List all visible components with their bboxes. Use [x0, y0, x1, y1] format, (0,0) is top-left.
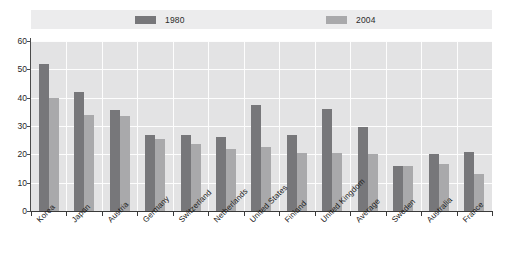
bar	[110, 110, 120, 211]
chart-legend: 1980 2004	[31, 10, 492, 29]
bar	[464, 152, 474, 212]
bar	[181, 135, 191, 212]
legend-swatch-2004	[326, 16, 347, 24]
legend-label-2004: 2004	[356, 15, 376, 25]
bar	[145, 135, 155, 212]
bar	[74, 92, 84, 211]
y-axis: 0102030405060	[0, 0, 27, 275]
bar	[322, 109, 332, 211]
bar-group	[137, 41, 172, 211]
bar	[358, 127, 368, 211]
y-tick-label-20: 20	[5, 149, 27, 159]
y-tick-label-10: 10	[5, 178, 27, 188]
legend-entry-1980: 1980	[135, 10, 185, 29]
bar	[287, 135, 297, 212]
x-tick-mark-8	[315, 211, 316, 216]
bar	[216, 137, 226, 211]
bar-group	[315, 41, 350, 211]
legend-swatch-1980	[135, 16, 156, 24]
y-tick-mark-20	[27, 154, 31, 155]
bar-group	[421, 41, 456, 211]
x-tick-mark-5	[208, 211, 209, 216]
bar	[39, 64, 49, 211]
x-tick-mark-11	[421, 211, 422, 216]
x-tick-mark-12	[457, 211, 458, 216]
bar-group	[66, 41, 101, 211]
bar-group	[457, 41, 492, 211]
bar	[84, 115, 94, 211]
x-tick-mark-end	[492, 211, 493, 216]
x-tick-mark-2	[102, 211, 103, 216]
y-tick-mark-10	[27, 183, 31, 184]
x-tick-mark-4	[173, 211, 174, 216]
x-tick-mark-9	[350, 211, 351, 216]
bar-group	[173, 41, 208, 211]
bar	[251, 105, 261, 211]
legend-entry-2004: 2004	[326, 10, 376, 29]
bar-group	[208, 41, 243, 211]
y-tick-label-0: 0	[5, 206, 27, 216]
bar-chart: 1980 2004 0102030405060 KoreaJapanAustri…	[0, 0, 523, 275]
x-tick-mark-1	[66, 211, 67, 216]
y-tick-label-40: 40	[5, 93, 27, 103]
y-tick-label-50: 50	[5, 64, 27, 74]
bar-group	[31, 41, 66, 211]
y-tick-mark-0	[27, 211, 31, 212]
x-tick-mark-3	[137, 211, 138, 216]
bar-group	[386, 41, 421, 211]
bar	[429, 154, 439, 211]
plot-area	[31, 41, 492, 211]
x-tick-mark-7	[279, 211, 280, 216]
bar	[120, 116, 130, 211]
y-tick-mark-40	[27, 98, 31, 99]
y-tick-mark-50	[27, 69, 31, 70]
x-tick-mark-6	[244, 211, 245, 216]
y-tick-mark-60	[27, 41, 31, 42]
y-tick-mark-30	[27, 126, 31, 127]
bar-group	[244, 41, 279, 211]
y-tick-label-60: 60	[5, 36, 27, 46]
x-tick-mark-0	[31, 211, 32, 216]
legend-label-1980: 1980	[165, 15, 185, 25]
y-tick-label-30: 30	[5, 121, 27, 131]
bar-group	[102, 41, 137, 211]
bar	[49, 98, 59, 211]
x-tick-mark-10	[386, 211, 387, 216]
